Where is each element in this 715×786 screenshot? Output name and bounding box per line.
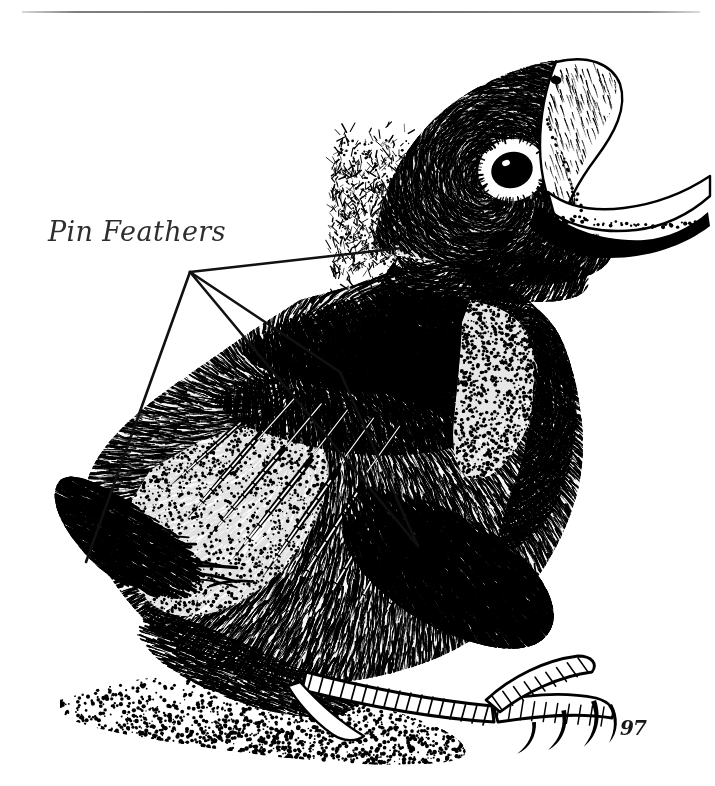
bird-illustration-canvas bbox=[0, 0, 715, 786]
artist-signature: 97 bbox=[620, 716, 646, 740]
top-divider-rule bbox=[22, 11, 700, 13]
illustration-figure: Pin Feathers 97 bbox=[0, 0, 715, 786]
pin-feathers-label: Pin Feathers bbox=[48, 216, 226, 248]
